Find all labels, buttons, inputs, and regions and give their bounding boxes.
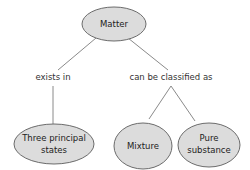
node-matter: Matter [82,7,146,41]
edge-classified-pure [171,86,195,121]
link-label-classified-as: can be classified as [129,72,213,82]
node-three-principal-states: Three principal states [14,124,94,164]
node-three-states-ellipse [14,124,94,164]
edge-classified-mixture [149,86,171,119]
link-label-exists-in: exists in [35,72,70,82]
edge-matter-classified-as [128,38,168,70]
node-mixture-label: Mixture [127,141,159,151]
concept-map: Matter exists in can be classified as Th… [0,0,250,170]
node-three-states-line2: states [41,145,68,155]
node-three-states-line1: Three principal [21,133,86,143]
node-mixture: Mixture [114,123,172,169]
node-pure-line1: Pure [200,133,219,143]
edge-matter-exists-in [58,38,96,70]
node-pure-line2: substance [187,145,230,155]
node-matter-label: Matter [100,19,128,29]
node-pure-substance: Pure substance [178,123,240,167]
